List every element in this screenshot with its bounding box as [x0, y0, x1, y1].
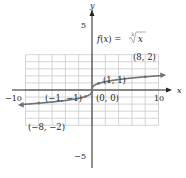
y-axis-label: y: [89, 1, 95, 10]
labels: −10105−5xy(8, 2)(1, 1)(0, 0)(−1, −1)(−8,…: [5, 1, 182, 161]
data-point: [144, 75, 147, 78]
y-tick-label: 5: [81, 21, 86, 30]
radicand: x: [138, 34, 143, 44]
data-point: [84, 95, 87, 98]
function-label: f(x) =: [96, 34, 121, 44]
y-axis-arrow-icon: [90, 10, 95, 16]
root-index: 3: [131, 32, 134, 37]
point-label: (−8, −2): [28, 122, 65, 132]
data-point: [97, 82, 100, 85]
data-point: [37, 102, 40, 105]
x-axis-label: x: [177, 86, 182, 95]
x-axis-arrow-icon: [166, 88, 172, 93]
x-tick-label: 10: [154, 94, 164, 103]
point-label: (8, 2): [133, 52, 156, 62]
point-label: (0, 0): [96, 93, 119, 103]
y-tick-label: −5: [74, 152, 86, 161]
point-label: (−1, −1): [45, 93, 82, 103]
curve-arrow-right-icon: [160, 73, 166, 78]
point-label: (1, 1): [103, 75, 126, 85]
cube-root-graph: −10105−5xy(8, 2)(1, 1)(0, 0)(−1, −1)(−8,…: [0, 0, 186, 178]
data-point: [91, 89, 94, 92]
x-tick-label: −10: [5, 94, 22, 103]
